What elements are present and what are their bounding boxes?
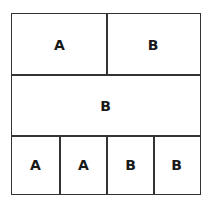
cell-r3-c2: A [60,136,107,193]
cell-r3-c4: B [154,136,199,193]
cell-r3-c1: A [12,136,59,193]
cell-r2-c1: B [12,75,199,136]
cell-r1-c1: A [12,14,107,75]
cell-r3-c3: B [107,136,154,193]
cell-r1-c2: B [107,14,199,75]
grid-frame: A B B A A B B [11,13,201,195]
